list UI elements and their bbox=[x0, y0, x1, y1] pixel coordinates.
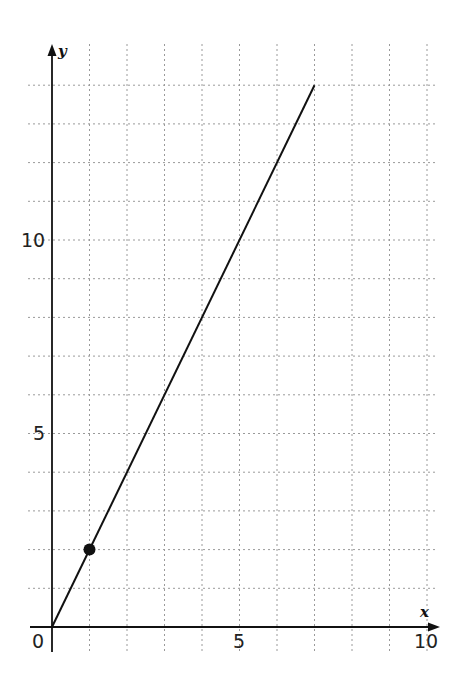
grid-lines bbox=[28, 44, 437, 652]
origin-label: 0 bbox=[32, 630, 44, 652]
x-tick-label-10: 10 bbox=[414, 630, 438, 652]
y-tick-label-5: 5 bbox=[33, 422, 45, 444]
y-tick-label-10: 10 bbox=[21, 229, 45, 251]
data-point-marker bbox=[84, 544, 96, 556]
x-tick-label-5: 5 bbox=[233, 630, 245, 652]
x-axis-label: x bbox=[419, 603, 430, 621]
line-chart: y x 0 5 10 5 10 bbox=[0, 0, 453, 677]
y-axis-arrow-icon bbox=[48, 44, 57, 56]
y-axis-label: y bbox=[57, 42, 68, 60]
